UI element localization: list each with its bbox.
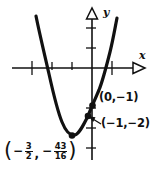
y-axis-label: y: [103, 7, 109, 18]
vertex-x-fraction: 3 2: [25, 142, 33, 161]
graph-figure: y x (0,−1) (−1,−2) ( − 3 2 , − 43 16 ): [0, 0, 159, 172]
point-y-intercept: [89, 102, 96, 109]
vertex-comma: ,: [34, 148, 41, 160]
x-axis-label: x: [139, 50, 146, 61]
y-axis-arrowhead-icon: [87, 8, 98, 19]
vertex-x-minus: −: [12, 145, 24, 157]
vertex-y-minus: −: [41, 145, 53, 157]
y-intercept-label: (0,−1): [99, 92, 138, 104]
vertex-y-numerator: 43: [54, 142, 67, 151]
vertex-y-fraction: 43 16: [54, 142, 67, 161]
vertex-close-paren: ): [68, 142, 76, 160]
vertex-x-numerator: 3: [25, 142, 33, 151]
vertex-label: ( − 3 2 , − 43 16 ): [4, 142, 76, 161]
vertex-x-denominator: 2: [25, 151, 33, 161]
y-axis-ticks: [86, 28, 96, 148]
x-axis-arrowhead-icon: [133, 63, 145, 74]
vertex-y-denominator: 16: [54, 151, 67, 161]
vertex-open-paren: (: [4, 142, 12, 160]
saddle-point-label: (−1,−2): [101, 118, 150, 130]
